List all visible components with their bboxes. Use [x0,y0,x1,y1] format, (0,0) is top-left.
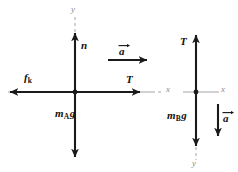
weight-b-mass-symbol: m [167,109,176,121]
acceleration-a-vector-accent: a [119,44,125,57]
acceleration-b-vector-accent: a [223,111,229,124]
diagram-b-axes [183,92,219,160]
free-body-diagram-figure: y x n fk T mAg a T x mBg a y [0,0,238,172]
friction-force-label: fk [24,72,32,84]
diagram-a-x-axis-label: x [166,85,170,94]
friction-force-subscript: k [28,76,32,85]
tension-b-label: T [180,36,187,47]
diagram-b-x-axis-label: x [221,85,225,94]
weight-a-label: mAg [55,108,75,120]
diagram-a-origin-dot [73,90,78,95]
diagram-canvas [0,0,238,172]
acceleration-a-letter: a [119,46,125,57]
weight-b-gravity-symbol: g [181,109,187,121]
acceleration-a-label: a [119,44,125,57]
normal-force-label: n [81,40,87,51]
diagram-a-y-axis-label: y [71,5,75,14]
acceleration-b-label: a [223,111,229,124]
diagram-b-y-axis-label: y [192,159,196,168]
weight-a-mass-symbol: m [55,107,64,119]
weight-b-label: mBg [167,110,187,122]
acceleration-b-letter: a [223,113,229,124]
weight-b-subscript: B [176,114,181,123]
tension-a-label: T [126,74,133,85]
weight-a-gravity-symbol: g [69,107,75,119]
diagram-b-origin-dot [194,90,199,95]
